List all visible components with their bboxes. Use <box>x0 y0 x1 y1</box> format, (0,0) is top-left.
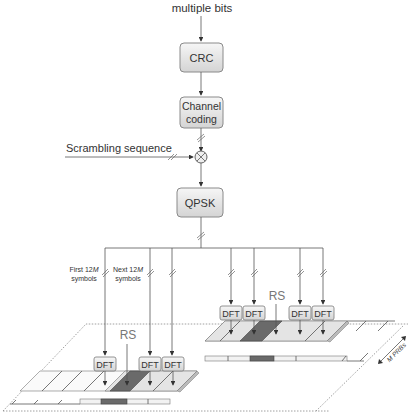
rs-label-left: RS <box>120 328 137 342</box>
svg-text:DFT: DFT <box>291 309 309 319</box>
qpsk-block: QPSK <box>177 188 223 217</box>
next-12m-label: Next 12M symbols <box>113 266 143 283</box>
svg-text:First 12M: First 12M <box>69 266 98 273</box>
svg-text:DFT: DFT <box>96 360 114 370</box>
sc-fdma-diagram: multiple bits CRC Channel coding Scrambl… <box>0 0 413 420</box>
mixer-icon <box>195 151 207 163</box>
channel-coding-label-1: Channel <box>182 100 221 112</box>
dft-block: DFT <box>94 357 116 371</box>
bandwidth-label: M PRBs <box>385 341 407 363</box>
input-label: multiple bits <box>172 2 233 14</box>
dft-block: DFT <box>243 306 265 320</box>
svg-text:DFT: DFT <box>314 309 332 319</box>
qpsk-label: QPSK <box>185 197 216 209</box>
svg-text:symbols: symbols <box>71 275 97 283</box>
crc-block: CRC <box>180 43 223 72</box>
bandwidth-annotation: M PRBs <box>378 336 408 364</box>
scrambling-label: Scrambling sequence <box>66 142 172 154</box>
left-resource-grid <box>10 371 199 404</box>
channel-coding-label-2: coding <box>186 113 217 125</box>
dft-block: DFT <box>220 306 242 320</box>
svg-text:DFT: DFT <box>141 360 159 370</box>
svg-text:DFT: DFT <box>164 360 182 370</box>
svg-text:symbols: symbols <box>115 275 141 283</box>
channel-coding-block: Channel coding <box>180 97 223 128</box>
dft-block: DFT <box>162 357 184 371</box>
first-12m-label: First 12M symbols <box>69 266 98 283</box>
rs-label-right: RS <box>269 289 286 303</box>
dft-block: DFT <box>139 357 161 371</box>
svg-text:DFT: DFT <box>245 309 263 319</box>
svg-text:DFT: DFT <box>222 309 240 319</box>
dft-block: DFT <box>289 306 311 320</box>
svg-text:Next 12M: Next 12M <box>113 266 143 273</box>
dft-block: DFT <box>312 306 334 320</box>
ground-plane-back <box>3 324 408 411</box>
crc-label: CRC <box>190 52 214 64</box>
